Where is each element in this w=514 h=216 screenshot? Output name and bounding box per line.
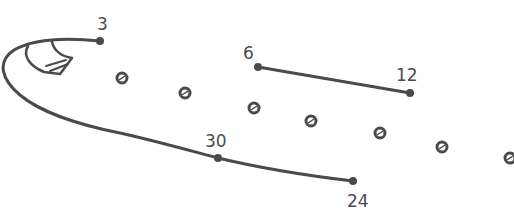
label-12: 12 (396, 67, 418, 84)
point-30-dot (214, 154, 222, 162)
small-dot-slash (308, 119, 314, 123)
hook-shape (26, 42, 72, 74)
drawing-canvas (0, 0, 514, 216)
label-6: 6 (243, 45, 254, 62)
small-dot-slash (251, 106, 257, 110)
small-dot-slash (377, 131, 383, 135)
point-6-dot (254, 63, 262, 71)
point-3-dot (96, 37, 104, 45)
point-24-dot (349, 177, 357, 185)
label-3: 3 (97, 16, 108, 33)
small-dot-slash (182, 91, 188, 95)
outer-curve-line (3, 39, 353, 181)
point-12-dot (406, 89, 414, 97)
small-dots-group (117, 73, 514, 163)
small-dot-slash (507, 156, 513, 160)
label-24: 24 (347, 193, 369, 210)
line-6-12 (258, 67, 410, 93)
label-30: 30 (205, 133, 227, 150)
small-dot-slash (439, 145, 445, 149)
small-dot-slash (119, 76, 125, 80)
